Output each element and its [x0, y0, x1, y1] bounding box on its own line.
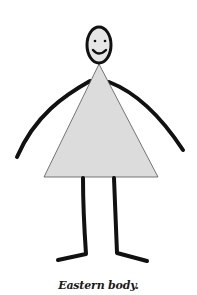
right-eye-icon [104, 40, 107, 43]
torso-triangle [44, 64, 158, 177]
right-leg [114, 178, 147, 261]
left-eye-icon [94, 40, 97, 43]
stick-figure-illustration [0, 0, 197, 295]
left-leg [58, 178, 86, 260]
head [87, 27, 111, 63]
figure-caption: Eastern body. [0, 279, 197, 292]
